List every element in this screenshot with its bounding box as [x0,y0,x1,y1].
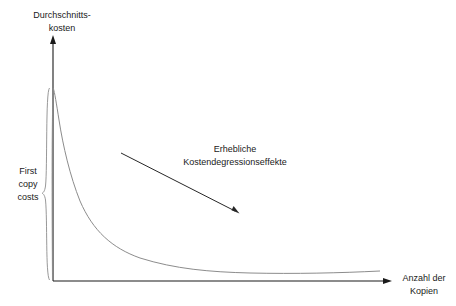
annotation-line1: Erhebliche [170,143,300,156]
annotation-line2: Kostendegressionseffekte [170,156,300,169]
y-axis-label-line1: Durchschnitts- [0,9,124,22]
first-copy-costs-line1: First [4,165,52,178]
y-axis-label: Durchschnitts- kosten [0,9,124,35]
economies-of-scale-annotation: Erhebliche Kostendegressionseffekte [170,143,300,169]
x-axis-arrowhead [383,278,392,284]
x-axis-label-line2: Kopien [392,285,456,298]
chart-canvas: Durchschnitts- kosten Anzahl der Kopien … [0,0,456,306]
first-copy-costs-label: First copy costs [4,165,52,204]
average-cost-curve [52,88,380,281]
y-axis [50,35,56,281]
x-axis-label-line1: Anzahl der [392,272,456,285]
first-copy-costs-line3: costs [4,191,52,204]
y-axis-label-line2: kosten [0,22,124,35]
y-axis-arrowhead [50,35,56,44]
annotation-arrowhead [232,206,240,213]
first-copy-costs-line2: copy [4,178,52,191]
x-axis-label: Anzahl der Kopien [392,272,456,298]
x-axis [53,278,392,284]
